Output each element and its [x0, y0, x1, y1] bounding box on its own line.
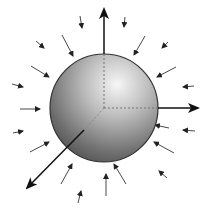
field-arrow-icon — [183, 86, 194, 87]
field-arrow-icon — [159, 171, 167, 178]
field-arrow-icon — [114, 164, 126, 184]
field-arrow-icon — [162, 42, 168, 48]
field-arrow-icon — [13, 131, 23, 133]
field-arrow-icon — [12, 84, 23, 87]
field-arrow-icon — [80, 16, 82, 28]
field-arrow-icon — [30, 142, 49, 152]
field-arrow-icon — [61, 164, 72, 184]
field-arrow-icon — [155, 125, 169, 128]
field-arrow-icon — [62, 35, 73, 56]
field-arrow-icon — [134, 36, 145, 55]
field-arrow-icon — [31, 66, 49, 77]
field-arrow-icon — [36, 41, 44, 48]
field-arrow-icon — [157, 67, 176, 77]
sphere-diagram — [0, 0, 212, 216]
field-arrow-icon — [154, 142, 174, 153]
y-axis-arrow — [27, 130, 84, 188]
field-arrow-icon — [78, 191, 81, 203]
field-arrow-icon — [124, 17, 125, 27]
field-arrow-icon — [183, 130, 195, 131]
